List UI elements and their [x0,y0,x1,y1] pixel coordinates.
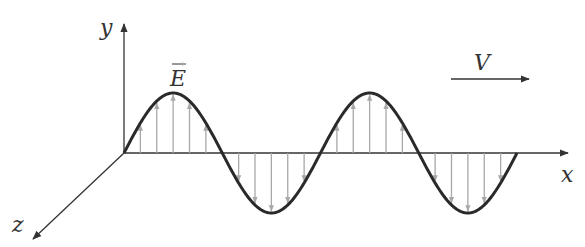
field-label-e: E [169,66,186,91]
em-wave-diagram: y x z E V [0,0,585,247]
z-axis-label: z [11,212,24,237]
y-axis-label: y [99,15,113,40]
z-axis [33,153,124,239]
velocity-label: V [474,50,492,75]
x-axis-label: x [561,162,574,187]
